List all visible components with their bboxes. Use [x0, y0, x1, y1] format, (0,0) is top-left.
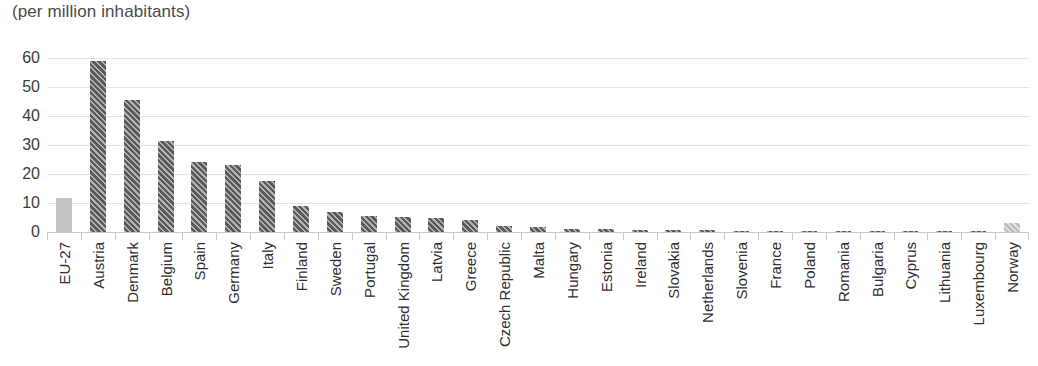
bar-slot [995, 58, 1029, 232]
y-tick-label: 40 [22, 107, 40, 125]
bar-portugal[interactable] [361, 216, 377, 232]
x-tick [487, 233, 488, 240]
x-label-cell: Spain [182, 242, 216, 366]
x-axis-ticks [47, 233, 1029, 240]
x-tick-label: United Kingdom [395, 242, 410, 349]
x-label-cell: United Kingdom [386, 242, 420, 366]
x-label-cell: Poland [792, 242, 826, 366]
x-tick [386, 233, 387, 240]
x-tick-label: Bulgaria [869, 242, 884, 297]
x-tick-label: Belgium [158, 242, 173, 296]
x-label-cell: Bulgaria [860, 242, 894, 366]
bar-slot [318, 58, 352, 232]
x-tick-label: Slovenia [734, 242, 749, 300]
bar-slot [758, 58, 792, 232]
x-label-cell: Slovakia [657, 242, 691, 366]
x-tick-label: Netherlands [700, 242, 715, 323]
bar-slot [386, 58, 420, 232]
x-label-cell: Czech Republic [487, 242, 521, 366]
x-tick [250, 233, 251, 240]
bar-slot [690, 58, 724, 232]
x-tick-label: France [768, 242, 783, 289]
x-tick-label: Italy [260, 242, 275, 270]
bar-germany[interactable] [225, 165, 241, 232]
x-tick-label: Czech Republic [497, 242, 512, 347]
bar-slot [115, 58, 149, 232]
x-tick-label: Greece [463, 242, 478, 291]
x-tick-label: Finland [293, 242, 308, 291]
x-tick [521, 233, 522, 240]
bar-denmark[interactable] [124, 100, 140, 232]
x-label-cell: Estonia [589, 242, 623, 366]
bar-norway[interactable] [1004, 223, 1020, 232]
x-tick [555, 233, 556, 240]
x-tick-label: Norway [1005, 242, 1020, 293]
x-tick-label: Poland [801, 242, 816, 289]
bar-slot [453, 58, 487, 232]
bar-slot [521, 58, 555, 232]
bar-austria[interactable] [90, 61, 106, 232]
x-tick [453, 233, 454, 240]
bar-belgium[interactable] [158, 141, 174, 232]
x-tick [182, 233, 183, 240]
bar-greece[interactable] [462, 220, 478, 232]
x-label-cell: Italy [250, 242, 284, 366]
bar-slot [81, 58, 115, 232]
x-label-cell: Cyprus [894, 242, 928, 366]
bar-sweden[interactable] [327, 212, 343, 232]
bar-series [47, 58, 1029, 232]
bar-latvia[interactable] [428, 218, 444, 233]
x-tick-label: Hungary [564, 242, 579, 299]
x-tick [995, 233, 996, 240]
x-tick [657, 233, 658, 240]
x-label-cell: EU-27 [47, 242, 81, 366]
bar-slot [284, 58, 318, 232]
y-tick-label: 10 [22, 194, 40, 212]
y-tick-label: 30 [22, 136, 40, 154]
x-label-cell: Austria [81, 242, 115, 366]
y-tick-label: 60 [22, 49, 40, 67]
x-label-cell: Hungary [555, 242, 589, 366]
x-label-cell: Luxembourg [961, 242, 995, 366]
x-label-cell: Malta [521, 242, 555, 366]
bar-spain[interactable] [191, 162, 207, 232]
x-tick-label: Malta [530, 242, 545, 279]
bar-slot [724, 58, 758, 232]
y-tick-label: 0 [31, 223, 40, 241]
bar-slot [47, 58, 81, 232]
x-tick [860, 233, 861, 240]
bar-slot [623, 58, 657, 232]
x-label-cell: France [758, 242, 792, 366]
x-tick [894, 233, 895, 240]
x-tick [284, 233, 285, 240]
x-label-cell: Slovenia [724, 242, 758, 366]
chart-page: (per million inhabitants) 6050403020100 … [0, 0, 1038, 366]
x-tick-label: Sweden [327, 242, 342, 296]
bar-slot [826, 58, 860, 232]
x-tick-label: Latvia [429, 242, 444, 282]
bar-slot [657, 58, 691, 232]
bar-finland[interactable] [293, 206, 309, 232]
y-tick-label: 50 [22, 78, 40, 96]
x-label-cell: Lithuania [927, 242, 961, 366]
x-tick-label: Romania [835, 242, 850, 302]
x-tick [792, 233, 793, 240]
x-tick [961, 233, 962, 240]
x-tick [318, 233, 319, 240]
bar-italy[interactable] [259, 181, 275, 232]
x-label-cell: Sweden [318, 242, 352, 366]
bar-slot [250, 58, 284, 232]
bar-eu-27[interactable] [56, 198, 72, 232]
x-tick [690, 233, 691, 240]
x-tick [589, 233, 590, 240]
x-tick [352, 233, 353, 240]
bar-united-kingdom[interactable] [395, 217, 411, 232]
x-tick [724, 233, 725, 240]
bar-slot [894, 58, 928, 232]
x-tick [216, 233, 217, 240]
x-tick-label: Germany [226, 242, 241, 304]
x-label-cell: Romania [826, 242, 860, 366]
x-tick-label: Portugal [361, 242, 376, 298]
chart-title: (per million inhabitants) [12, 2, 190, 22]
x-tick-label: EU-27 [56, 242, 71, 285]
